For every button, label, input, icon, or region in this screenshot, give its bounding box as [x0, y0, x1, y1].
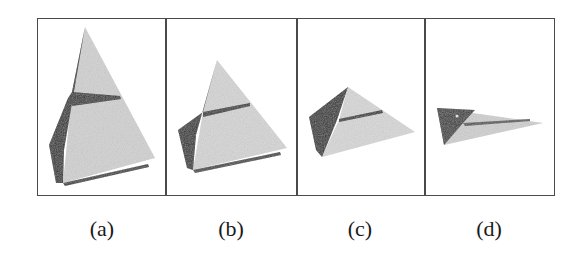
pyramid-b: [178, 60, 287, 173]
panel-label-d: (d): [459, 216, 519, 242]
pyramid-c: [309, 87, 415, 157]
panel-label-a: (a): [72, 216, 132, 242]
panel-label-c: (c): [330, 216, 390, 242]
pyramid-d: [437, 108, 543, 145]
pyramid-a: [49, 27, 155, 186]
figure: (a) (b) (c) (d): [0, 0, 585, 257]
panel-label-b: (b): [201, 216, 261, 242]
